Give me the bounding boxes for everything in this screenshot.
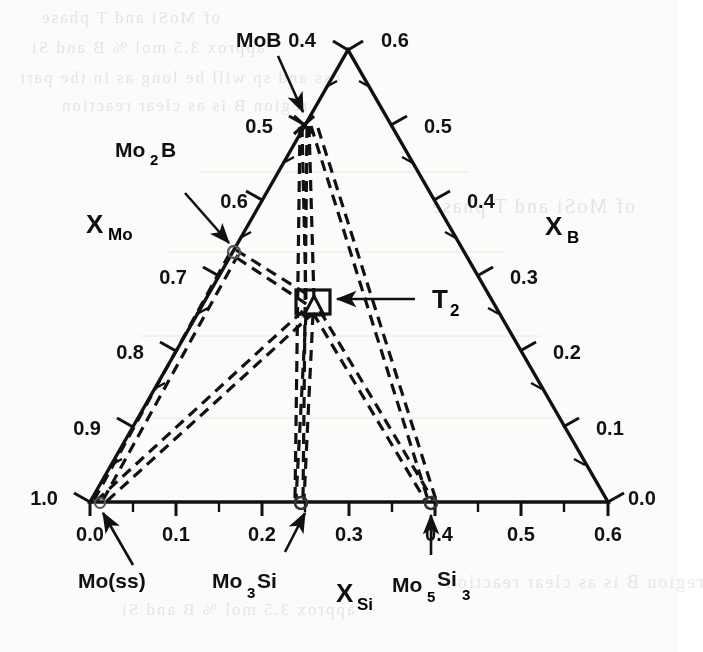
left-tick-label-1: 0.5 [245,115,273,137]
right-tick-label-6: 0.0 [628,487,656,509]
right-axis-tick-labels: 0.6 0.5 0.4 0.3 0.2 0.1 0.0 [381,29,656,509]
phase-label-mo5si3-base: Mo [392,573,422,596]
bottom-tick-label-2: 0.2 [248,523,276,545]
axis-title-xb-sub: B [567,228,579,247]
bottom-tick-label-3: 0.3 [335,523,363,545]
right-tick-label-1: 0.5 [424,115,452,137]
phase-label-mo5si3: Mo 5 Si 3 [392,567,470,605]
left-tick-label-0: 0.4 [288,29,317,51]
phase-label-mo5si3-sub1: 5 [427,588,435,605]
phase-label-t2-base: T [432,284,448,314]
phase-label-mo3si-base: Mo [212,569,242,592]
right-tick-label-3: 0.3 [510,266,538,288]
arrow-to-mo3si [285,513,305,552]
phase-label-t2: T 2 [432,284,459,320]
bottom-tick-label-6: 0.6 [594,523,622,545]
right-tick-label-2: 0.4 [467,190,496,212]
tie-line-moss-mo2b [94,251,238,500]
phase-label-mo5si3-mid: Si [437,567,457,590]
phase-label-moss: Mo(ss) [78,569,146,592]
phase-marker-mob[interactable] [294,116,314,134]
interior-faint-guides [112,172,575,418]
right-axis-ticks [333,41,624,502]
phase-label-t2-sub: 2 [450,301,459,320]
phase-label-mo2b-sub: 2 [150,151,158,168]
axis-title-xsi-sub: Si [357,595,373,614]
phase-label-mo3si-tail: Si [257,569,277,592]
bottom-axis-tick-labels: 0.0 0.1 0.2 0.3 0.4 0.5 0.6 [76,523,622,545]
arrow-to-moss [103,513,133,565]
axis-title-xmo-base: X [86,209,104,239]
axis-title-xb: X B [545,211,579,247]
tie-lines [94,126,436,501]
left-tick-label-2: 0.6 [220,190,248,212]
axis-title-xb-base: X [545,211,563,241]
phase-markers [95,116,437,509]
phase-label-mo2b-base: Mo [115,138,145,161]
left-axis-tick-labels: 0.4 0.5 0.6 0.7 0.8 0.9 1.0 [30,29,317,509]
right-tick-label-5: 0.1 [596,417,624,439]
bottom-tick-label-4: 0.4 [425,523,454,545]
left-tick-label-3: 0.7 [159,266,187,288]
phase-label-mo2b: Mo 2 B [115,138,176,168]
phase-label-mo2b-tail: B [161,138,176,161]
axis-title-xsi: X Si [336,578,373,614]
left-tick-label-5: 0.9 [73,417,101,439]
arrow-to-mob [278,56,303,112]
bottom-tick-label-1: 0.1 [162,523,190,545]
phase-label-mo5si3-sub2: 3 [462,586,470,603]
tie-line-t2-mo5si3 [313,311,433,500]
phase-label-mob: MoB [236,28,282,51]
left-tick-label-4: 0.8 [116,341,144,363]
right-tick-label-0: 0.6 [381,29,409,51]
axis-title-xmo-sub: Mo [108,225,133,244]
bottom-tick-label-0: 0.0 [76,523,104,545]
axis-title-xmo: X Mo [86,209,133,244]
phase-label-mo3si-sub: 3 [247,584,255,601]
axis-title-xsi-base: X [336,578,354,608]
right-axis-minor-ticks [359,81,585,465]
tie-line-moss-t2 [96,309,311,501]
left-tick-label-6: 1.0 [30,487,58,509]
phase-label-mo3si: Mo 3 Si [212,569,277,601]
right-tick-label-4: 0.2 [553,341,581,363]
bottom-axis-ticks [90,502,608,516]
bottom-tick-label-5: 0.5 [507,523,535,545]
